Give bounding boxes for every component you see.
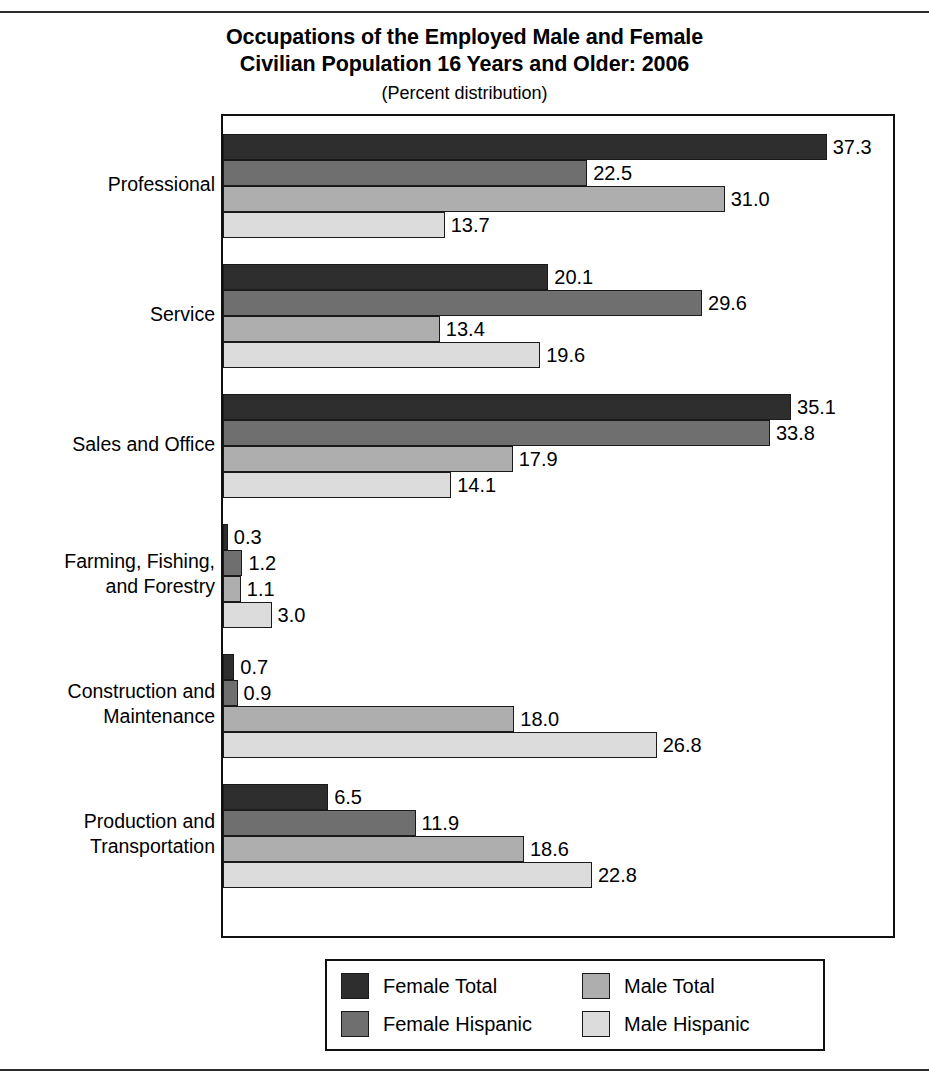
bar-value-label: 18.0 <box>514 706 559 732</box>
bar-row: 13.7 <box>223 212 893 238</box>
bar[interactable] <box>223 342 540 368</box>
chart-title-line-1: Occupations of the Employed Male and Fem… <box>0 24 929 51</box>
bar-group: 6.511.918.622.8 <box>223 784 893 888</box>
bar-row: 35.1 <box>223 394 893 420</box>
bar[interactable] <box>223 290 702 316</box>
bar-group: 0.70.918.026.8 <box>223 654 893 758</box>
bar[interactable] <box>223 394 791 420</box>
category-label: Construction andMaintenance <box>0 679 215 729</box>
bar-value-label: 0.3 <box>228 524 262 550</box>
category-label: Service <box>0 302 215 327</box>
legend-label: Male Total <box>624 974 715 998</box>
category-label-line: Maintenance <box>0 704 215 729</box>
bar[interactable] <box>223 264 548 290</box>
bar[interactable] <box>223 186 725 212</box>
bar-value-label: 14.1 <box>451 472 496 498</box>
category-label-line: Construction and <box>0 679 215 704</box>
bar-row: 29.6 <box>223 290 893 316</box>
legend-item[interactable]: Male Hispanic <box>582 1011 823 1037</box>
bars-container: 37.322.531.013.720.129.613.419.635.133.8… <box>223 116 893 936</box>
bar-row: 20.1 <box>223 264 893 290</box>
bar-value-label: 37.3 <box>827 134 872 160</box>
plot-area: 37.322.531.013.720.129.613.419.635.133.8… <box>221 114 895 938</box>
bar-value-label: 0.9 <box>238 680 272 706</box>
bar-row: 22.5 <box>223 160 893 186</box>
bar-value-label: 3.0 <box>272 602 306 628</box>
bar-row: 14.1 <box>223 472 893 498</box>
bar-value-label: 35.1 <box>791 394 836 420</box>
title-block: Occupations of the Employed Male and Fem… <box>0 24 929 106</box>
bar-value-label: 18.6 <box>524 836 569 862</box>
bar-value-label: 11.9 <box>416 810 459 836</box>
category-label: Sales and Office <box>0 432 215 457</box>
chart-title: Occupations of the Employed Male and Fem… <box>0 24 929 78</box>
bar[interactable] <box>223 654 234 680</box>
legend-item[interactable]: Female Hispanic <box>341 1011 582 1037</box>
legend-swatch <box>582 1011 610 1037</box>
bar-row: 3.0 <box>223 602 893 628</box>
bar[interactable] <box>223 836 524 862</box>
bar-value-label: 19.6 <box>540 342 585 368</box>
bar-value-label: 13.4 <box>440 316 485 342</box>
bar-row: 31.0 <box>223 186 893 212</box>
bar-value-label: 1.1 <box>241 576 275 602</box>
bar[interactable] <box>223 160 587 186</box>
bar[interactable] <box>223 602 272 628</box>
bar[interactable] <box>223 212 445 238</box>
bar-row: 18.6 <box>223 836 893 862</box>
bar[interactable] <box>223 810 416 836</box>
legend-swatch <box>341 973 369 999</box>
bar[interactable] <box>223 446 513 472</box>
category-label: Farming, Fishing,and Forestry <box>0 549 215 599</box>
legend-item[interactable]: Male Total <box>582 973 823 999</box>
bar-value-label: 1.2 <box>242 550 276 576</box>
bar[interactable] <box>223 134 827 160</box>
bar-value-label: 33.8 <box>770 420 815 446</box>
bar[interactable] <box>223 680 238 706</box>
legend-label: Female Total <box>383 974 497 998</box>
bar-value-label: 31.0 <box>725 186 770 212</box>
bar[interactable] <box>223 550 242 576</box>
bar-value-label: 13.7 <box>445 212 490 238</box>
bar[interactable] <box>223 420 770 446</box>
bar-row: 37.3 <box>223 134 893 160</box>
bar-row: 26.8 <box>223 732 893 758</box>
bar-value-label: 29.6 <box>702 290 747 316</box>
bar-value-label: 17.9 <box>513 446 558 472</box>
bar[interactable] <box>223 472 451 498</box>
bar-value-label: 20.1 <box>548 264 593 290</box>
bar[interactable] <box>223 576 241 602</box>
bar-group: 0.31.21.13.0 <box>223 524 893 628</box>
bar[interactable] <box>223 316 440 342</box>
category-label-line: Farming, Fishing, <box>0 549 215 574</box>
legend-grid: Female TotalMale TotalFemale HispanicMal… <box>327 961 823 1049</box>
chart-subtitle: (Percent distribution) <box>0 80 929 106</box>
bar-row: 11.9 <box>223 810 893 836</box>
legend-label: Female Hispanic <box>383 1012 532 1036</box>
bar[interactable] <box>223 706 514 732</box>
legend-swatch <box>341 1011 369 1037</box>
bar-row: 18.0 <box>223 706 893 732</box>
bar[interactable] <box>223 862 592 888</box>
category-label-line: Sales and Office <box>0 432 215 457</box>
bar-row: 19.6 <box>223 342 893 368</box>
chart-title-line-2: Civilian Population 16 Years and Older: … <box>0 51 929 78</box>
legend-item[interactable]: Female Total <box>341 973 582 999</box>
bar-row: 1.1 <box>223 576 893 602</box>
bar-row: 33.8 <box>223 420 893 446</box>
category-label-line: Transportation <box>0 834 215 859</box>
bar-row: 6.5 <box>223 784 893 810</box>
category-label-line: Production and <box>0 809 215 834</box>
bar-value-label: 22.5 <box>587 160 632 186</box>
bar[interactable] <box>223 784 328 810</box>
bar-value-label: 6.5 <box>328 784 362 810</box>
bar-group: 35.133.817.914.1 <box>223 394 893 498</box>
bar-group: 37.322.531.013.7 <box>223 134 893 238</box>
bar-value-label: 22.8 <box>592 862 637 888</box>
bar[interactable] <box>223 732 657 758</box>
bar-group: 20.129.613.419.6 <box>223 264 893 368</box>
legend-label: Male Hispanic <box>624 1012 750 1036</box>
category-label: Production andTransportation <box>0 809 215 859</box>
bar-value-label: 26.8 <box>657 732 702 758</box>
bar-value-label: 0.7 <box>234 654 268 680</box>
